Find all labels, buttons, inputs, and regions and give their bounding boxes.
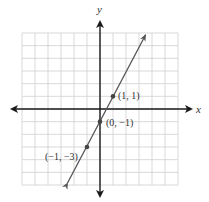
data-point [98, 119, 103, 124]
point-label-0-neg1: (0, −1) [106, 118, 133, 128]
coordinate-plane [0, 0, 209, 202]
point-label-neg1-neg3: (−1, −3) [45, 152, 78, 162]
data-point [85, 145, 90, 150]
point-label-1-1: (1, 1) [118, 91, 140, 101]
x-axis-label: x [196, 104, 201, 114]
data-point [111, 94, 116, 99]
y-axis-label: y [97, 4, 102, 14]
